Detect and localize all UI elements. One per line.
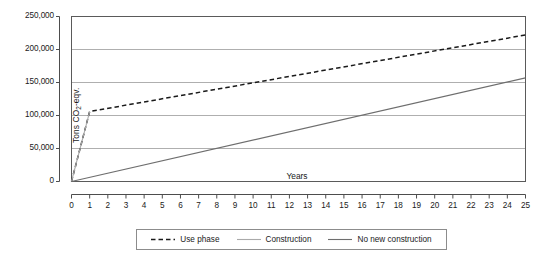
x-tick-label: 22 [461,201,481,210]
y-tick-label: 50,000 [0,143,54,152]
x-tick-label: 12 [279,201,299,210]
y-tick-label: 150,000 [0,77,54,86]
x-tick-label: 13 [298,201,318,210]
legend-label: Construction [266,235,312,244]
y-tick-label: 100,000 [0,110,54,119]
frame-rect [72,17,526,182]
x-tick-label: 11 [261,201,281,210]
x-tick-label: 19 [407,201,427,210]
chart-legend: Use phaseConstructionNo new construction [136,229,447,250]
series-line-use-phase [72,35,526,182]
chart-figure: 050,000100,000150,000200,000250,000 0123… [0,0,543,262]
gridlines [72,17,526,182]
x-tick-label: 8 [207,201,227,210]
x-tick-label: 24 [497,201,517,210]
data-series [72,35,526,182]
legend-swatch-solid [237,235,261,244]
legend-label: Use phase [180,235,219,244]
plot-canvas [0,0,543,262]
x-tick-label: 2 [98,201,118,210]
x-tick-label: 1 [80,201,100,210]
y-axis-title-tail: -eqv. [71,88,81,107]
plot-frame [72,17,526,182]
x-tick-label: 0 [62,201,82,210]
x-tick-label: 14 [316,201,336,210]
x-tick-label: 16 [352,201,372,210]
x-tick-label: 10 [243,201,263,210]
x-tick-label: 18 [388,201,408,210]
y-axis-title-subscript: 2 [75,106,82,110]
x-tick-label: 7 [189,201,209,210]
x-tick-label: 15 [334,201,354,210]
x-tick-label: 3 [116,201,136,210]
y-tick-label: 250,000 [0,11,54,20]
x-tick-label: 9 [225,201,245,210]
x-tick-label: 20 [425,201,445,210]
legend-label: No new construction [357,235,431,244]
y-tick-label: 0 [0,176,54,185]
x-axis-ruler [72,195,526,199]
legend-swatch-dashed [151,235,175,244]
series-line-no-new-construction [72,78,526,182]
legend-entry: Use phase [151,235,219,244]
legend-entry: Construction [237,235,312,244]
x-tick-label: 4 [134,201,154,210]
y-axis-title: Tons CO2-eqv. [71,88,81,143]
y-tick-label: 200,000 [0,44,54,53]
x-tick-label: 17 [370,201,390,210]
legend-entry: No new construction [328,235,431,244]
x-tick-label: 5 [152,201,172,210]
x-tick-label: 25 [516,201,536,210]
x-axis-title: Years [255,171,339,181]
x-tick-label: 21 [443,201,463,210]
y-axis-title-base: Tons CO [71,110,81,143]
x-tick-label: 23 [479,201,499,210]
legend-swatch-solid [328,235,352,244]
y-axis-ruler [56,17,60,182]
x-tick-label: 6 [170,201,190,210]
